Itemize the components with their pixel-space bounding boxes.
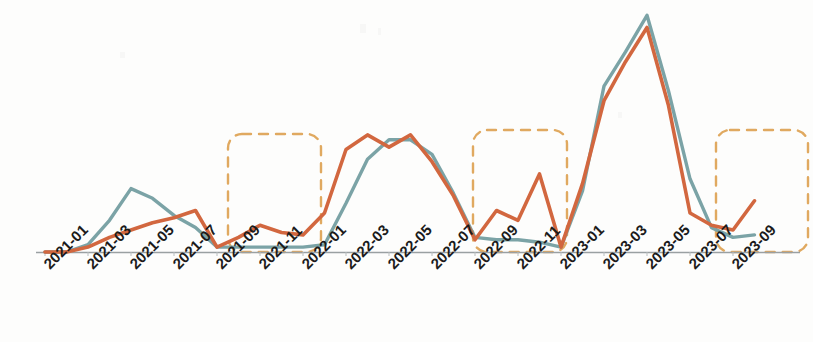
series-line-orange	[45, 28, 755, 253]
series-line-teal	[45, 15, 755, 252]
chart-page: 2021-012021-032021-052021-072021-092021-…	[0, 0, 813, 342]
line-chart-plot	[0, 0, 813, 342]
